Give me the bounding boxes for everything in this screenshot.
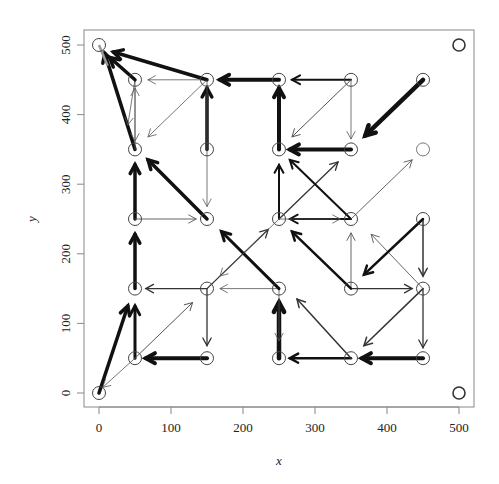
arrow [351,160,412,219]
arrow [347,80,355,139]
y-tick-label: 200 [58,244,73,263]
arrow [419,219,428,276]
arrow [146,284,207,292]
x-axis-title: x [275,453,282,468]
arrow [364,219,423,275]
y-tick-label: 0 [58,390,73,397]
arrow [279,215,340,223]
state-point [417,143,430,156]
arrow-plot: 0100200300400500 0100200300400500 x y [0,0,499,484]
arrow [275,165,284,219]
arrow [419,289,427,348]
x-tick-label: 200 [233,420,253,435]
arrow [290,354,351,363]
x-tick-label: 300 [305,420,325,435]
arrow [365,80,423,136]
arrow [292,75,351,84]
arrow-layer [99,45,427,393]
arrow [292,80,351,137]
arrow [99,306,130,393]
x-tick-label: 500 [449,420,469,435]
y-tick-label: 100 [58,314,73,334]
arrow [220,75,279,85]
arrow [279,162,338,219]
arrow [290,160,351,219]
arrow [130,234,140,288]
arrow [364,289,423,346]
arrow [274,88,284,149]
arrow [135,215,196,223]
state-point [453,387,465,399]
arrow [220,285,279,293]
arrow [135,303,193,359]
arrow [148,160,207,219]
arrow [351,284,412,292]
arrow [290,144,351,154]
arrow [130,306,139,358]
arrow [347,233,355,289]
x-tick-label: 100 [161,420,181,435]
arrow [203,289,211,346]
arrow [362,353,423,363]
arrow [220,219,279,276]
arrow [275,289,283,341]
y-axis-title: y [24,216,39,224]
x-tick-label: 400 [377,420,397,435]
y-axis: 0100200300400500 [58,35,84,396]
y-tick-label: 300 [58,174,73,194]
x-tick-label: 0 [96,420,103,435]
state-point [453,39,465,51]
arrow [130,165,140,219]
arrow [146,353,207,363]
y-tick-label: 500 [58,35,73,55]
arrow [221,232,279,289]
x-axis: 0100200300400500 [96,407,469,435]
arrow [148,80,207,137]
arrow [292,232,351,289]
arrow [297,299,351,358]
y-tick-label: 400 [58,105,73,125]
